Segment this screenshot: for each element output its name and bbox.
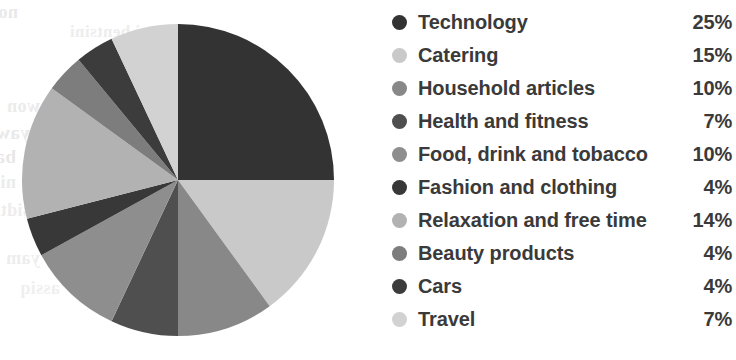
legend-item-label: Fashion and clothing (418, 176, 670, 199)
legend-item-value: 15% (670, 44, 732, 67)
legend-item-value: 4% (670, 176, 732, 199)
legend-item: Technology25% (392, 6, 732, 39)
legend-item: Catering15% (392, 39, 732, 72)
legend-color-swatch-icon (392, 312, 407, 327)
legend-item-value: 10% (670, 143, 732, 166)
legend-item: Health and fitness7% (392, 105, 732, 138)
legend-item-value: 25% (670, 11, 732, 34)
legend-item-value: 7% (670, 110, 732, 133)
legend-item-label: Food, drink and tobacco (418, 143, 670, 166)
legend-item-label: Relaxation and free time (418, 209, 670, 232)
legend-color-swatch-icon (392, 48, 407, 63)
pie-slice-group (22, 24, 334, 336)
legend-item-value: 7% (670, 308, 732, 331)
legend-item-label: Cars (418, 275, 670, 298)
legend-item-value: 4% (670, 275, 732, 298)
legend-item: Travel7% (392, 303, 732, 336)
legend-color-swatch-icon (392, 15, 407, 30)
legend-item-label: Household articles (418, 77, 670, 100)
legend-color-swatch-icon (392, 114, 407, 129)
legend-color-swatch-icon (392, 180, 407, 195)
legend-item-label: Technology (418, 11, 670, 34)
legend-item: Fashion and clothing4% (392, 171, 732, 204)
legend-color-swatch-icon (392, 246, 407, 261)
legend-color-swatch-icon (392, 213, 407, 228)
legend-item-value: 14% (670, 209, 732, 232)
pie-chart-figure: notionalni bentsinieritwonyaw abailsitas… (0, 0, 736, 360)
legend-item: Food, drink and tobacco10% (392, 138, 732, 171)
pie-slice (178, 24, 334, 180)
legend-item-value: 10% (670, 77, 732, 100)
legend-color-swatch-icon (392, 147, 407, 162)
ghost-text-line: bailsitas (0, 146, 16, 168)
chart-legend: Technology25%Catering15%Household articl… (392, 6, 732, 336)
legend-item-label: Travel (418, 308, 670, 331)
legend-item: Cars4% (392, 270, 732, 303)
legend-item-label: Catering (418, 44, 670, 67)
legend-color-swatch-icon (392, 279, 407, 294)
legend-color-swatch-icon (392, 81, 407, 96)
ghost-text-line: notional (0, 2, 18, 23)
legend-item: Beauty products4% (392, 237, 732, 270)
pie-chart-svg (21, 23, 335, 337)
legend-item-label: Health and fitness (418, 110, 670, 133)
pie-chart (21, 23, 335, 337)
legend-item-label: Beauty products (418, 242, 670, 265)
legend-item-value: 4% (670, 242, 732, 265)
legend-item: Household articles10% (392, 72, 732, 105)
ghost-text-line: nislqmo (0, 172, 16, 193)
legend-item: Relaxation and free time14% (392, 204, 732, 237)
